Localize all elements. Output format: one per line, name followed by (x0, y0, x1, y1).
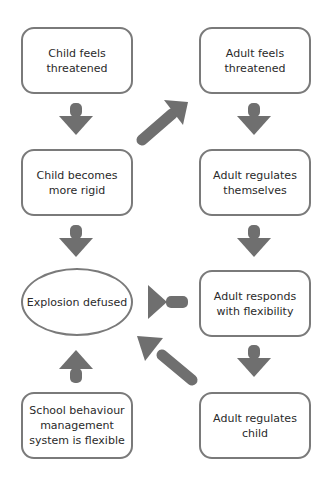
arrow-down-icon (59, 225, 93, 257)
node-label: Adult regulates child (207, 411, 303, 441)
node-label: Adult feels threatened (207, 46, 303, 76)
node-adult-responds-with-flexibility: Adult responds with flexibility (199, 270, 311, 337)
node-label: Adult responds with flexibility (207, 289, 303, 319)
arrow-left-icon (148, 285, 188, 319)
node-adult-feels-threatened: Adult feels threatened (199, 27, 311, 94)
node-child-becomes-more-rigid: Child becomes more rigid (21, 149, 133, 216)
arrow-down-icon (237, 103, 271, 135)
node-adult-regulates-themselves: Adult regulates themselves (199, 149, 311, 216)
node-school-system-flexible: School behaviour management system is fl… (21, 392, 133, 459)
node-explosion-defused: Explosion defused (21, 268, 133, 336)
node-adult-regulates-child: Adult regulates child (199, 392, 311, 459)
node-label: Explosion defused (27, 296, 127, 309)
node-label: Child feels threatened (29, 46, 125, 76)
node-label: School behaviour management system is fl… (29, 403, 125, 448)
node-label: Child becomes more rigid (29, 168, 125, 198)
arrow-down-icon (237, 225, 271, 257)
arrow-diagonal-up-left-icon (137, 336, 192, 380)
arrow-down-icon (59, 103, 93, 135)
node-child-feels-threatened: Child feels threatened (21, 27, 133, 94)
node-label: Adult regulates themselves (207, 168, 303, 198)
arrow-diagonal-up-right-icon (142, 100, 188, 140)
arrow-down-icon (237, 345, 271, 377)
arrow-up-icon (59, 350, 93, 383)
